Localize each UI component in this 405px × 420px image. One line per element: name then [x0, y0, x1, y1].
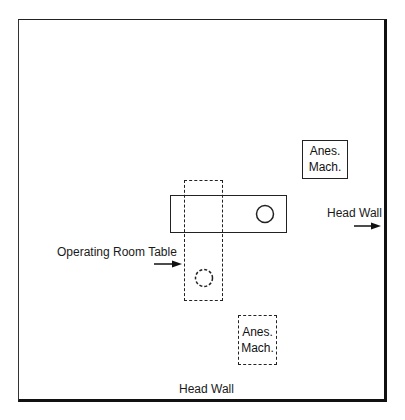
operating-room-table-label: Operating Room Table — [57, 245, 177, 259]
anesthesia-machine-solid: Anes. Mach. — [302, 140, 348, 179]
head-position-circle-icon — [257, 206, 274, 223]
head-position-dashed-circle-icon — [196, 270, 213, 287]
head-wall-label-right: Head Wall — [327, 206, 382, 220]
anes-machine-line2: Mach. — [239, 340, 276, 356]
anes-machine-line2: Mach. — [303, 159, 347, 175]
arrow-right-icon-headwall — [354, 223, 381, 230]
anes-machine-line1: Anes. — [303, 143, 347, 159]
anes-machine-line1: Anes. — [239, 324, 276, 340]
anesthesia-machine-dashed: Anes. Mach. — [238, 315, 277, 365]
arrow-right-icon-table — [154, 261, 182, 268]
head-wall-label-bottom: Head Wall — [179, 382, 234, 396]
